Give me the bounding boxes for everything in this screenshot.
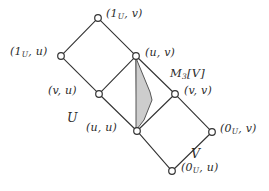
edge-1uv-1uu: [64, 21, 96, 54]
edge-uv-vu: [102, 59, 134, 92]
node-u-v-label: (u, v): [145, 47, 175, 58]
node-1u-u[interactable]: [58, 53, 65, 60]
node-0u-u-label: (0U, u): [181, 162, 218, 174]
diagram-canvas: [0, 0, 269, 191]
node-u-u-label: (u, u): [86, 122, 117, 133]
node-v-v[interactable]: [172, 91, 179, 98]
node-0u-u[interactable]: [169, 168, 176, 175]
node-v-v-label: (v, v): [184, 85, 212, 96]
node-u-u[interactable]: [134, 128, 141, 135]
edge-vv-0uv: [178, 97, 210, 130]
node-1u-v[interactable]: [95, 15, 102, 22]
node-1u-u-label: (1U, u): [10, 46, 47, 58]
hasse-diagram-figure: (1U, v)(1U, u)(u, v)(v, u)(v, v)(u, u)(0…: [0, 0, 269, 191]
node-v-u[interactable]: [96, 91, 103, 98]
node-0u-v[interactable]: [209, 129, 216, 136]
node-v-u-label: (v, u): [48, 85, 77, 96]
edge-uu-0uu: [139, 134, 169, 169]
edge-1uv-uv: [101, 21, 134, 54]
node-1u-v-label: (1U, v): [106, 8, 143, 20]
label-m3-v: M3[V]: [170, 68, 205, 80]
node-0u-v-label: (0U, v): [220, 123, 257, 135]
node-u-v[interactable]: [133, 53, 140, 60]
label-set-u: U: [67, 112, 78, 125]
label-set-v: V: [191, 148, 200, 161]
